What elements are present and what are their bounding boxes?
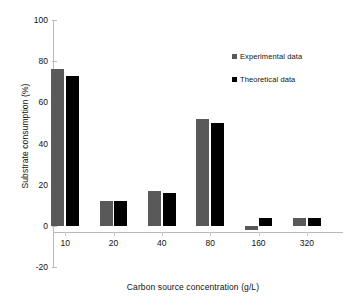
bar [148, 191, 161, 226]
x-tick [114, 232, 115, 236]
x-tick [259, 232, 260, 236]
y-tick [52, 267, 57, 268]
y-axis-title: Substrate consumption (%) [20, 41, 34, 231]
bar [245, 226, 258, 230]
y-tick [52, 226, 57, 227]
x-tick [307, 232, 308, 236]
x-tick [162, 232, 163, 236]
y-tick-label: 40 [39, 139, 48, 149]
y-tick-label: 20 [39, 180, 48, 190]
x-tick-label: 160 [251, 238, 265, 248]
y-tick-label: 80 [39, 56, 48, 66]
x-tick-label: 20 [109, 238, 118, 248]
x-tick [65, 232, 66, 236]
bar [211, 123, 224, 226]
bar [100, 201, 113, 226]
legend-swatch-icon [232, 54, 237, 59]
x-axis-title: Carbon source concentration (g/L) [40, 282, 346, 292]
bar [308, 218, 321, 226]
x-tick [210, 232, 211, 236]
bar [114, 201, 127, 226]
bar [66, 76, 79, 226]
bar-chart-figure: Substrate consumption (%) Carbon source … [0, 0, 356, 307]
y-tick-label: -20 [36, 262, 48, 272]
legend-item-theoretical: Theoretical data [232, 75, 302, 84]
x-tick-label: 80 [205, 238, 214, 248]
x-tick-label: 10 [60, 238, 69, 248]
chart-legend: Experimental data Theoretical data [232, 52, 302, 98]
legend-swatch-icon [232, 77, 237, 82]
x-tick-label: 40 [157, 238, 166, 248]
y-tick-label: 60 [39, 97, 48, 107]
bar [51, 69, 64, 225]
x-axis-line [53, 232, 343, 233]
y-tick [52, 61, 57, 62]
y-tick-label: 0 [43, 221, 48, 231]
bar [293, 218, 306, 226]
y-tick-label: 100 [34, 15, 48, 25]
x-tick-label: 320 [300, 238, 314, 248]
bar [259, 218, 272, 226]
legend-label: Experimental data [240, 52, 302, 61]
legend-label: Theoretical data [240, 75, 295, 84]
bar [196, 119, 209, 226]
legend-item-experimental: Experimental data [232, 52, 302, 61]
y-tick [52, 20, 57, 21]
bar [163, 193, 176, 226]
